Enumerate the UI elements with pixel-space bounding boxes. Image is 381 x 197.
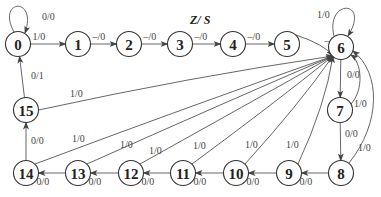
state-label: 12: [124, 166, 139, 182]
edge-label-10-to-6: 1/0: [245, 139, 258, 150]
edge-label-9-to-6: 1/0: [286, 139, 299, 150]
state-label: 10: [229, 166, 244, 182]
state-label: 1: [74, 37, 82, 53]
edge-label-7-to-8: 0/0: [345, 128, 358, 139]
edge-7-to-8: [340, 122, 341, 160]
edge-label-8-to-6: 1/0: [358, 142, 371, 153]
edge-label-3-to-4: –/0: [194, 31, 208, 42]
state-label: 3: [176, 37, 184, 53]
diagram-title: Z/ S: [189, 13, 211, 27]
state-node-4: 4: [221, 32, 246, 57]
state-node-12: 12: [119, 161, 144, 186]
state-label: 8: [337, 166, 345, 182]
state-diagram: Z/ S 0/01/0–/0–/0–/0–/0–/01/00/01/00/01/…: [0, 0, 381, 197]
edge-12-to-6: [140, 56, 333, 164]
state-node-8: 8: [329, 161, 354, 186]
state-node-5: 5: [275, 32, 300, 57]
state-label: 9: [285, 166, 293, 182]
edge-label-15-to-0: 0/1: [31, 70, 44, 81]
edge-label-12-to-13: 0/0: [89, 176, 102, 187]
edge-label-2-to-3: –/0: [143, 31, 157, 42]
edge-label-6-to-6: 1/0: [317, 9, 330, 20]
edge-label-10-to-11: 0/0: [194, 176, 207, 187]
edge-6-to-6: [333, 8, 355, 36]
edge-label-11-to-6: 1/0: [193, 140, 206, 151]
state-node-14: 14: [14, 161, 39, 186]
state-label: 15: [19, 103, 34, 119]
edge-label-8-to-9: 0/0: [300, 176, 313, 187]
state-node-10: 10: [224, 161, 249, 186]
state-label: 13: [71, 166, 86, 182]
state-node-2: 2: [117, 32, 142, 57]
state-node-6: 6: [329, 35, 354, 60]
edge-label-6-to-7: 0/0: [347, 69, 360, 80]
state-node-0: 0: [6, 32, 31, 57]
edge-15-to-6: [39, 56, 334, 110]
state-node-15: 15: [14, 98, 39, 123]
edge-6-to-7: [340, 59, 341, 97]
state-label: 0: [14, 37, 22, 53]
edge-label-7-to-6: 1/0: [354, 98, 367, 109]
edge-label-11-to-12: 0/0: [142, 176, 155, 187]
state-node-13: 13: [66, 161, 91, 186]
state-label: 5: [283, 37, 291, 53]
edge-label-13-to-14: 0/0: [37, 176, 50, 187]
edge-label-4-to-5: –/0: [247, 31, 261, 42]
edge-label-14-to-15: 0/0: [31, 135, 44, 146]
edge-0-to-0: [9, 6, 27, 33]
edges: [9, 6, 373, 173]
state-node-9: 9: [277, 161, 302, 186]
edge-11-to-6: [192, 56, 333, 164]
edge-label-13-to-6: 1/0: [120, 139, 133, 150]
state-label: 11: [176, 166, 190, 182]
nodes: 0123456789101112131415: [6, 32, 354, 186]
state-label: 14: [19, 166, 35, 182]
edge-label-14-to-6: 1/0: [72, 133, 85, 144]
state-label: 7: [336, 103, 344, 119]
state-label: 4: [229, 37, 237, 53]
edge-label-0-to-0: 0/0: [42, 11, 55, 22]
state-node-3: 3: [168, 32, 193, 57]
state-label: 6: [337, 40, 345, 56]
edge-label-1-to-2: –/0: [92, 31, 106, 42]
edge-label-15-to-6: 1/0: [70, 88, 83, 99]
state-node-7: 7: [328, 98, 353, 123]
state-node-1: 1: [66, 32, 91, 57]
state-node-11: 11: [171, 161, 196, 186]
edge-label-0-to-1: 1/0: [33, 31, 46, 42]
edge-label-12-to-6: 1/0: [149, 145, 162, 156]
state-label: 2: [125, 37, 133, 53]
edge-label-9-to-10: 0/0: [247, 176, 260, 187]
edge-15-to-0: [20, 56, 25, 97]
